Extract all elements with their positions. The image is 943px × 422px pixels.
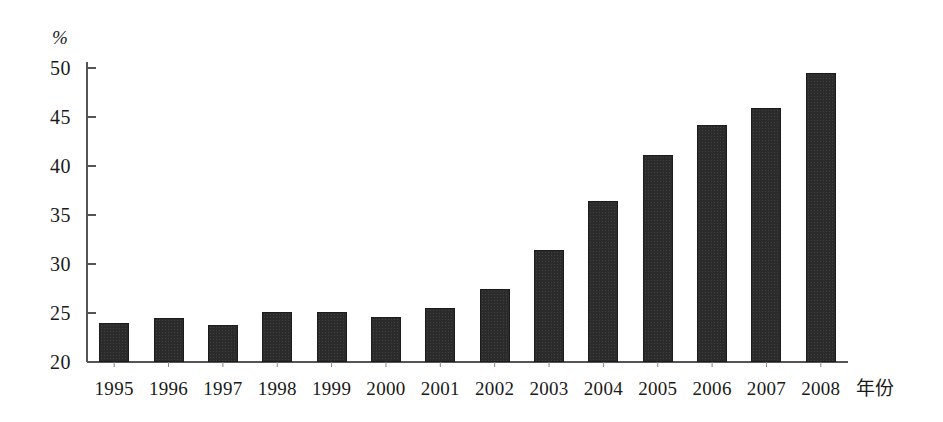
x-tick-label: 2005	[628, 379, 688, 398]
y-tick-label: 25	[37, 303, 71, 323]
bar	[208, 325, 238, 362]
x-tick-label: 1995	[84, 379, 144, 398]
bar	[154, 318, 184, 362]
bar	[697, 125, 727, 362]
bar	[317, 312, 347, 362]
bar	[643, 155, 673, 362]
bar	[534, 250, 564, 362]
bar	[425, 308, 455, 362]
bar	[751, 108, 781, 362]
bar	[480, 289, 510, 362]
bar	[806, 73, 836, 362]
bar	[99, 323, 129, 362]
x-tick-label: 1998	[247, 379, 307, 398]
y-tick-label: 20	[37, 352, 71, 372]
y-tick-label: 50	[37, 58, 71, 78]
x-tick-label: 1996	[139, 379, 199, 398]
plot-area: 2025303540455019951996199719981999200020…	[0, 0, 943, 422]
x-tick-label: 2004	[573, 379, 633, 398]
x-tick-label: 2000	[356, 379, 416, 398]
x-tick-label: 2001	[410, 379, 470, 398]
bar-chart-figure: % 20253035404550199519961997199819992000…	[0, 0, 943, 422]
y-tick-label: 45	[37, 107, 71, 127]
x-axis-title: 年份	[856, 379, 894, 398]
x-tick-label: 2007	[736, 379, 796, 398]
bar	[262, 312, 292, 362]
x-tick-label: 2008	[791, 379, 851, 398]
x-tick-label: 1999	[302, 379, 362, 398]
bar	[588, 201, 618, 362]
x-tick-label: 2003	[519, 379, 579, 398]
y-tick-label: 35	[37, 205, 71, 225]
x-tick-label: 2002	[465, 379, 525, 398]
x-tick-label: 2006	[682, 379, 742, 398]
x-tick-label: 1997	[193, 379, 253, 398]
y-tick-label: 30	[37, 254, 71, 274]
y-tick-label: 40	[37, 156, 71, 176]
bar	[371, 317, 401, 362]
